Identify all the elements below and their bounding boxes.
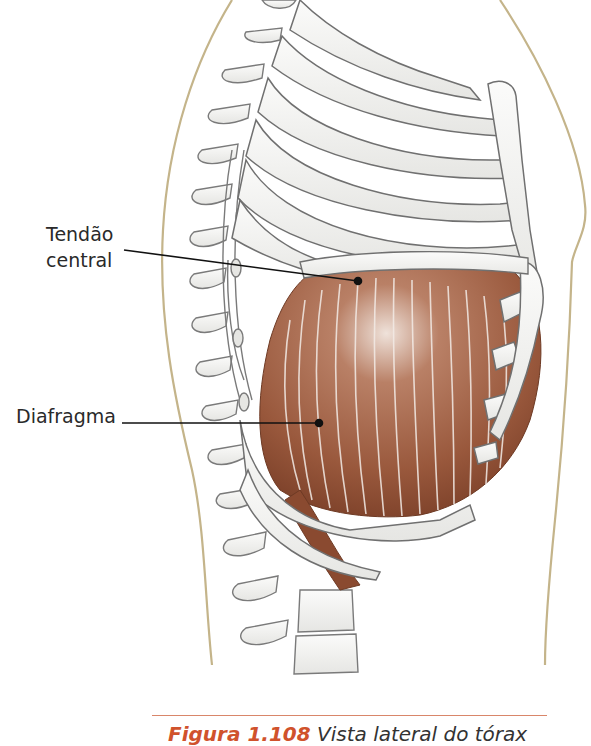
figure-number: Figura 1.108 [168,722,311,746]
thorax-lateral-illustration [0,0,591,680]
diaphragm-pointer-dot [316,420,323,427]
central-tendon-pointer-dot [355,278,362,285]
diaphragm-label: Diafragma [16,403,116,429]
caption-divider [152,715,547,716]
central-tendon-label-line2: central [46,247,113,273]
central-tendon-label-line1: Tendão [46,221,113,247]
figure-caption-text: Vista lateral do tórax [317,722,527,746]
central-tendon-label: Tendão central [46,221,113,273]
figure-caption: Figura 1.108 Vista lateral do tórax [168,722,527,746]
